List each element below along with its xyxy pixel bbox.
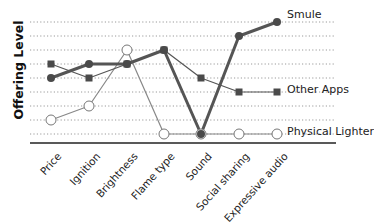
data-point	[274, 89, 281, 96]
data-point	[197, 130, 205, 138]
data-point	[234, 129, 244, 139]
data-point	[48, 61, 55, 68]
series-line-other-apps	[51, 50, 277, 92]
data-point	[272, 129, 282, 139]
legend-smule: Smule	[287, 8, 322, 21]
data-point	[159, 129, 169, 139]
data-point	[46, 115, 56, 125]
data-point	[122, 45, 132, 55]
data-point	[86, 75, 93, 82]
legend-other-apps: Other Apps	[287, 83, 349, 96]
data-point	[47, 74, 55, 82]
data-point	[84, 101, 94, 111]
legend-physical-lighter: Physical Lighter	[287, 125, 374, 138]
y-axis-label: Offering Level	[11, 20, 26, 119]
data-point	[85, 60, 93, 68]
data-point	[236, 89, 243, 96]
data-point	[160, 46, 168, 54]
data-point	[123, 60, 131, 68]
data-point	[198, 75, 205, 82]
data-point	[273, 18, 281, 26]
data-point	[235, 32, 243, 40]
